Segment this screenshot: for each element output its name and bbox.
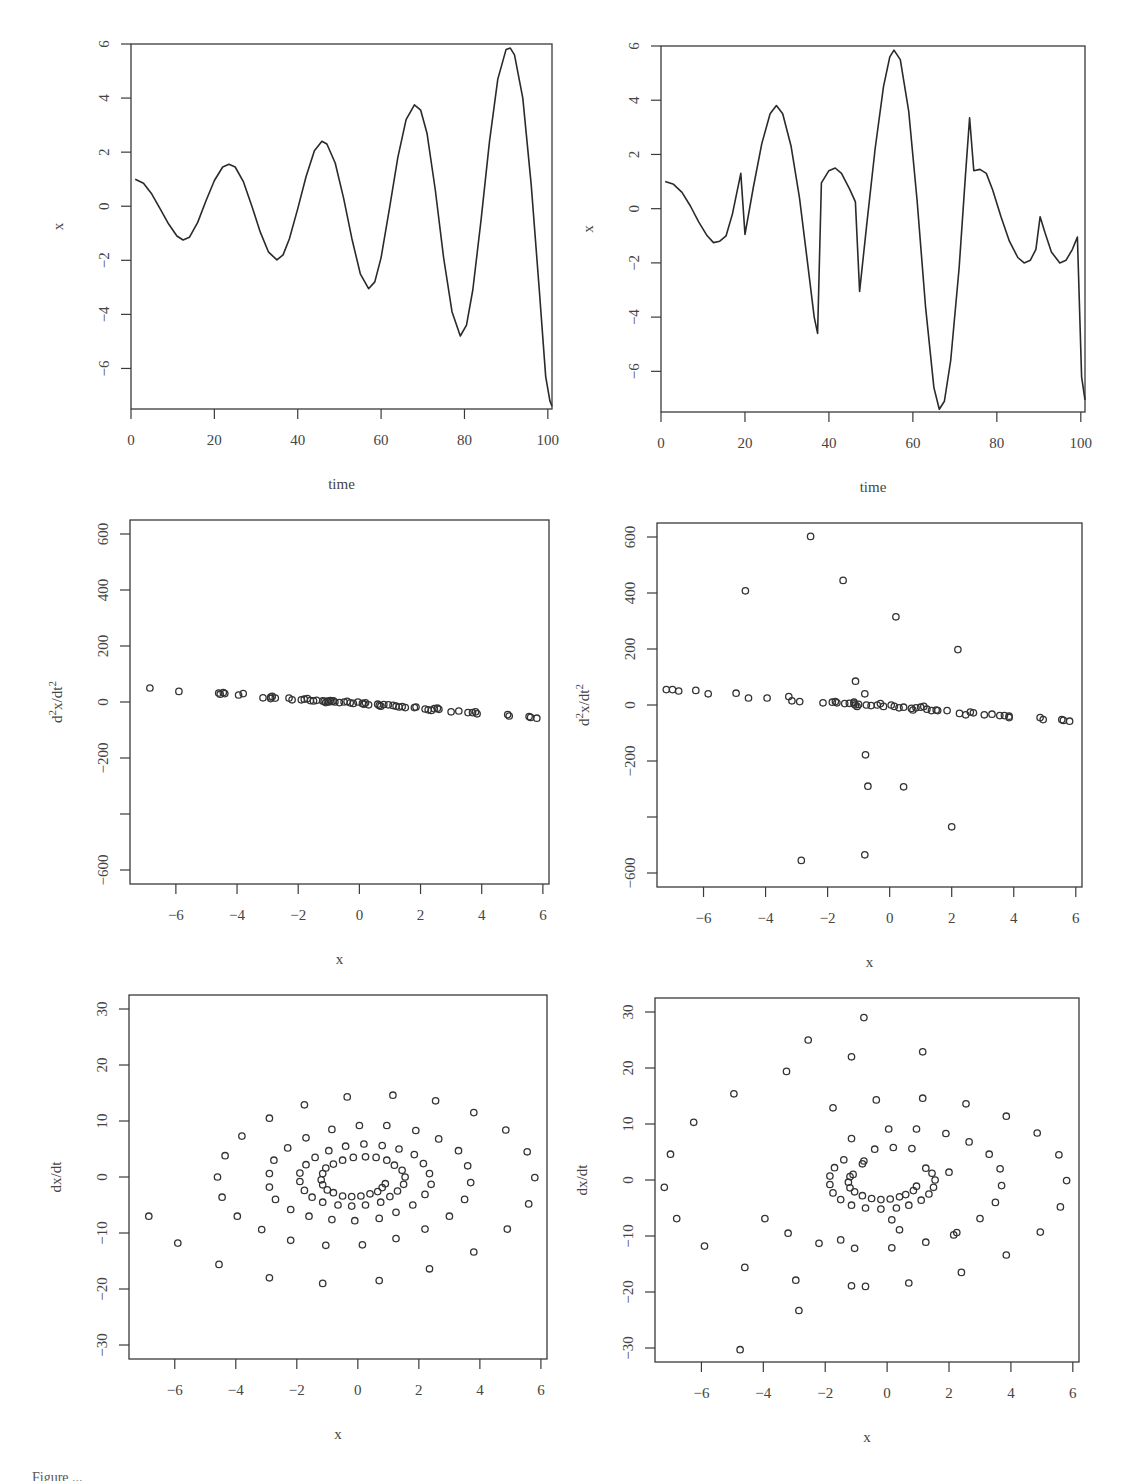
- y-tick-label: −10: [620, 1224, 636, 1247]
- data-point: [929, 1170, 935, 1176]
- data-point: [958, 1269, 964, 1275]
- data-point: [1063, 1177, 1069, 1183]
- data-point: [889, 1217, 895, 1223]
- data-point: [868, 1195, 874, 1201]
- data-point: [848, 1283, 854, 1289]
- data-point: [913, 1126, 919, 1132]
- data-point: [862, 1205, 868, 1211]
- data-point: [861, 1014, 867, 1020]
- data-point: [997, 1166, 1003, 1172]
- y-tick-label: 30: [620, 1005, 636, 1020]
- data-point: [1034, 1130, 1040, 1136]
- data-point: [848, 1202, 854, 1208]
- data-point: [878, 1206, 884, 1212]
- data-point: [848, 1054, 854, 1060]
- data-point: [737, 1347, 743, 1353]
- data-point: [691, 1119, 697, 1125]
- data-point: [796, 1307, 802, 1313]
- data-point: [762, 1215, 768, 1221]
- plot-frame: [655, 998, 1079, 1362]
- data-point: [667, 1151, 673, 1157]
- data-point: [926, 1191, 932, 1197]
- data-point: [906, 1280, 912, 1286]
- data-point: [661, 1184, 667, 1190]
- data-point: [862, 1283, 868, 1289]
- data-point: [943, 1130, 949, 1136]
- data-point: [920, 1049, 926, 1055]
- data-point: [923, 1165, 929, 1171]
- data-point: [838, 1196, 844, 1202]
- data-point: [906, 1202, 912, 1208]
- data-point: [827, 1181, 833, 1187]
- x-tick-label: 4: [1007, 1385, 1015, 1401]
- data-point: [1056, 1152, 1062, 1158]
- y-tick-label: 10: [620, 1117, 636, 1132]
- data-point: [793, 1277, 799, 1283]
- data-point: [830, 1105, 836, 1111]
- x-tick-label: −4: [755, 1385, 771, 1401]
- data-point: [918, 1197, 924, 1203]
- data-point: [946, 1169, 952, 1175]
- data-point: [896, 1194, 902, 1200]
- data-point: [827, 1173, 833, 1179]
- data-point: [783, 1068, 789, 1074]
- data-point: [838, 1237, 844, 1243]
- data-point: [889, 1245, 895, 1251]
- y-tick-label: 20: [620, 1061, 636, 1076]
- data-point: [920, 1095, 926, 1101]
- data-point: [1057, 1204, 1063, 1210]
- data-point: [851, 1189, 857, 1195]
- x-tick-label: 6: [1069, 1385, 1077, 1401]
- data-point: [893, 1205, 899, 1211]
- data-point: [890, 1144, 896, 1150]
- x-axis-label: x: [863, 1429, 871, 1445]
- data-point: [674, 1215, 680, 1221]
- data-point: [966, 1139, 972, 1145]
- y-axis-label: dx/dt: [574, 1164, 590, 1196]
- data-point: [785, 1230, 791, 1236]
- data-point: [977, 1215, 983, 1221]
- data-point: [909, 1145, 915, 1151]
- data-point: [1003, 1113, 1009, 1119]
- y-tick-label: −20: [620, 1280, 636, 1303]
- data-point: [742, 1264, 748, 1270]
- data-point: [963, 1101, 969, 1107]
- data-point: [859, 1193, 865, 1199]
- data-point: [873, 1097, 879, 1103]
- data-point: [932, 1177, 938, 1183]
- data-point: [851, 1245, 857, 1251]
- data-point: [896, 1227, 902, 1233]
- figure-caption: Figure ...: [32, 1470, 83, 1481]
- x-tick-label: −2: [817, 1385, 833, 1401]
- data-point: [887, 1196, 893, 1202]
- data-point: [701, 1243, 707, 1249]
- data-point: [1003, 1252, 1009, 1258]
- chart-svg: −6−4−20246−30−20−100102030xdx/dt: [0, 0, 1128, 1481]
- data-point: [831, 1165, 837, 1171]
- x-tick-label: 2: [945, 1385, 953, 1401]
- x-tick-label: 0: [883, 1385, 891, 1401]
- data-point: [848, 1135, 854, 1141]
- y-tick-label: 0: [620, 1176, 636, 1184]
- data-point: [1037, 1229, 1043, 1235]
- data-point: [878, 1196, 884, 1202]
- data-point: [923, 1239, 929, 1245]
- data-point: [930, 1184, 936, 1190]
- data-point: [903, 1191, 909, 1197]
- data-point: [992, 1199, 998, 1205]
- data-point: [805, 1037, 811, 1043]
- data-point: [986, 1151, 992, 1157]
- data-point: [998, 1182, 1004, 1188]
- data-point: [886, 1126, 892, 1132]
- data-point: [841, 1157, 847, 1163]
- y-tick-label: −30: [620, 1336, 636, 1359]
- data-point: [816, 1240, 822, 1246]
- x-tick-label: −6: [693, 1385, 709, 1401]
- data-point: [731, 1091, 737, 1097]
- data-point: [872, 1146, 878, 1152]
- data-point: [830, 1190, 836, 1196]
